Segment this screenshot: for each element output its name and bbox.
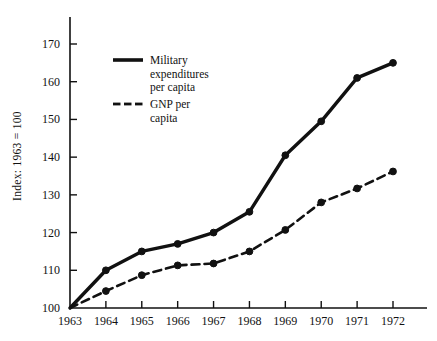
y-axis-title: Index: 1963 = 100 [11,81,23,231]
x-axis-tick-label: 1969 [273,314,297,328]
x-axis: 1963196419651966196719681969197019711972 [58,301,427,328]
data-point-marker [210,229,217,236]
y-axis-tick-label: 110 [42,263,60,277]
x-axis-tick-label: 1967 [202,314,226,328]
y-axis-tick-label: 100 [42,301,60,315]
data-point-marker [174,240,181,247]
y-axis-tick-label: 130 [42,188,60,202]
data-point-marker [354,185,361,192]
data-point-marker [390,59,397,66]
data-point-marker [390,168,397,175]
legend-label-line: Military [150,54,188,67]
y-axis-tick-label: 120 [42,226,60,240]
y-axis-tick-label: 170 [42,37,60,51]
x-axis-tick-label: 1968 [237,314,261,328]
x-axis-tick-label: 1972 [381,314,405,328]
x-axis-tick-label: 1963 [58,314,82,328]
y-axis-tick-label: 160 [42,75,60,89]
data-point-marker [102,267,109,274]
data-point-marker [318,199,325,206]
y-axis-tick-label: 140 [42,150,60,164]
data-point-marker [246,208,253,215]
data-point-marker [282,227,289,234]
data-point-marker [138,272,145,279]
chart-container: Index: 1963 = 100 1001101201301401501601… [0,0,437,341]
legend-label-line: expenditures [150,68,209,81]
legend-label-line: per capita [150,81,195,94]
x-axis-tick-label: 1971 [345,314,369,328]
series-line [70,171,393,308]
clipped-top-caption [60,0,400,2]
line-chart-plot: 100110120130140150160170 196319641965196… [0,0,437,341]
data-point-marker [318,118,325,125]
data-point-marker [174,262,181,269]
y-axis: 100110120130140150160170 [42,17,77,315]
data-series-group [70,59,396,308]
data-point-marker [102,288,109,295]
x-axis-tick-label: 1965 [130,314,154,328]
legend-label-line: GNP per [150,98,190,111]
series-line [70,63,393,308]
data-point-marker [138,248,145,255]
x-axis-tick-label: 1964 [94,314,118,328]
data-point-marker [354,75,361,82]
data-point-marker [210,260,217,267]
x-axis-tick-label: 1966 [166,314,190,328]
data-point-marker [246,248,253,255]
y-axis-tick-label: 150 [42,112,60,126]
data-point-marker [282,152,289,159]
legend-label-line: capita [150,112,177,125]
x-axis-tick-label: 1970 [309,314,333,328]
chart-legend: Militaryexpendituresper capitaGNP percap… [113,54,209,125]
